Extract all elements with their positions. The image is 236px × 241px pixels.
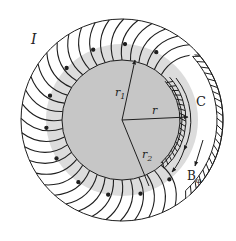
current-arrow-icon [107,193,110,196]
current-arrow-icon [155,51,158,54]
toroid-diagram: I r1 r r2 C Bφ [0,0,236,241]
current-arrow-icon [65,66,68,69]
current-arrow-icon [77,181,80,184]
current-arrow-icon [139,192,142,195]
current-arrow-icon [45,126,48,129]
r-label: r [152,104,158,117]
current-arrow-icon [48,94,51,97]
current-arrow-icon [92,48,95,51]
current-arrow-icon [168,178,171,181]
current-arrow-icon [55,157,58,160]
current-arrow-icon [123,43,126,46]
loop-c-label: C [196,94,206,109]
current-label: I [30,31,37,47]
